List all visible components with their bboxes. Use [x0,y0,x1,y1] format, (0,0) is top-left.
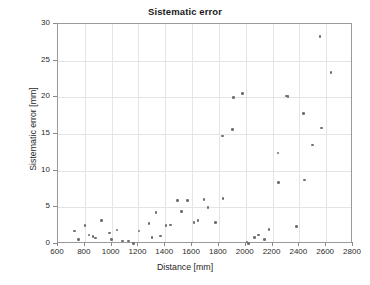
scatter-point [295,225,298,228]
scatter-point [287,95,290,98]
y-tick-mark [53,23,57,24]
scatter-point [330,71,333,74]
x-tick-mark [164,242,165,246]
scatter-point [303,179,306,182]
x-tick-mark [298,242,299,246]
scatter-point [232,96,235,99]
scatter-point [138,230,141,233]
scatter-point [263,238,266,241]
scatter-point [180,210,183,213]
scatter-point [186,199,189,202]
scatter-point [311,144,314,147]
scatter-point [277,181,280,184]
x-tick-mark [245,242,246,246]
y-tick-mark [53,60,57,61]
x-tick-label: 2800 [332,247,370,256]
scatter-point [94,237,97,240]
scatter-point [84,224,87,227]
scatter-point [176,199,179,202]
scatter-point [268,228,271,231]
scatter-point [221,135,224,138]
x-tick-mark [325,242,326,246]
scatter-point [277,152,280,155]
scatter-point [241,92,244,95]
x-tick-mark [352,242,353,246]
x-tick-mark [84,242,85,246]
scatter-point [253,236,256,239]
scatter-point [257,234,260,237]
y-tick-label: 0 [8,238,50,247]
scatter-point [159,235,162,238]
y-tick-mark [53,170,57,171]
scatter-point [222,197,225,200]
scatter-point [148,222,151,225]
scatter-point [320,127,323,130]
y-tick-mark [53,133,57,134]
y-axis-label: Sistematic error [mm] [28,39,38,219]
scatter-point [132,242,135,245]
scatter-point [116,229,119,232]
scatter-point [302,112,305,115]
x-tick-mark [137,242,138,246]
scatter-point [319,35,322,38]
scatter-point [151,236,154,239]
chart-title: Sistematic error [0,6,370,17]
scatter-point [169,224,172,227]
scatter-point [197,219,200,222]
scatter-point [110,238,113,241]
scatter-point [231,128,234,131]
scatter-points [58,24,351,242]
y-tick-mark [53,243,57,244]
scatter-point [207,206,210,209]
scatter-point [214,221,217,224]
scatter-point [88,234,91,237]
scatter-point [121,240,124,243]
scatter-point [203,198,206,201]
x-axis-label: Distance [mm] [0,262,370,272]
scatter-point [155,211,158,214]
scatter-point [193,221,196,224]
scatter-point [127,240,130,243]
x-tick-mark [191,242,192,246]
scatter-point [100,219,103,222]
y-tick-mark [53,206,57,207]
scatter-point [108,232,111,235]
y-tick-label: 30 [8,18,50,27]
scatter-point [247,242,250,245]
x-tick-mark [57,242,58,246]
x-tick-mark [272,242,273,246]
x-tick-mark [218,242,219,246]
plot-area [57,23,352,243]
chart-figure: Sistematic error 60080010001200140016001… [0,0,370,285]
scatter-point [77,238,80,241]
y-tick-mark [53,96,57,97]
scatter-point [73,230,76,233]
scatter-point [165,224,168,227]
x-tick-mark [111,242,112,246]
